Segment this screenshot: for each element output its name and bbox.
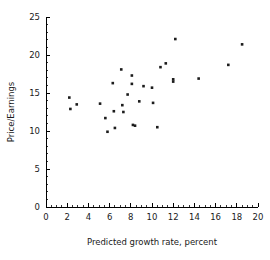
data-point <box>174 38 177 41</box>
y-axis-title: Price/Earnings <box>6 81 16 142</box>
data-point <box>159 66 162 69</box>
y-tick-label: 10 <box>29 126 40 136</box>
data-point <box>122 111 125 114</box>
data-point <box>142 85 145 88</box>
x-tick-label: 10 <box>147 212 158 222</box>
y-tick-label: 15 <box>29 88 40 98</box>
data-point <box>104 117 107 120</box>
data-point <box>197 77 200 80</box>
data-point <box>227 64 230 67</box>
data-point <box>131 83 134 86</box>
x-tick-label: 6 <box>107 212 112 222</box>
x-axis-title: Predicted growth rate, percent <box>87 237 218 247</box>
data-point <box>121 104 124 107</box>
data-point <box>241 43 244 46</box>
data-point <box>138 100 141 103</box>
y-tick-label: 0 <box>35 202 40 212</box>
data-point <box>152 102 155 105</box>
y-tick-label: 5 <box>35 164 40 174</box>
x-tick-label: 18 <box>231 212 242 222</box>
data-point <box>172 78 175 81</box>
data-point <box>134 124 137 127</box>
data-point <box>120 68 123 71</box>
data-point <box>126 93 129 96</box>
data-point <box>156 126 159 129</box>
x-tick-label: 4 <box>86 212 91 222</box>
scatter-plot-figure: 02468101214161820 0510152025 Predicted g… <box>0 0 270 260</box>
data-point <box>99 102 102 105</box>
x-tick-label: 2 <box>64 212 69 222</box>
data-point <box>106 130 109 133</box>
data-point <box>75 103 78 106</box>
y-tick-label: 25 <box>29 12 40 22</box>
x-tick-label: 0 <box>43 212 48 222</box>
x-tick-label: 8 <box>128 212 133 222</box>
x-tick-label: 20 <box>253 212 264 222</box>
y-axis-major-ticks <box>46 17 50 207</box>
data-point-series <box>68 38 243 133</box>
data-point <box>111 82 114 85</box>
data-point <box>164 62 167 65</box>
data-point <box>113 110 116 113</box>
data-point <box>114 127 117 130</box>
y-axis-tick-labels: 0510152025 <box>29 12 40 212</box>
x-tick-label: 16 <box>210 212 221 222</box>
y-tick-label: 20 <box>29 50 40 60</box>
x-tick-label: 14 <box>189 212 200 222</box>
data-point <box>151 86 154 89</box>
data-point <box>69 108 72 111</box>
data-point <box>131 74 134 77</box>
plot-canvas: 02468101214161820 0510152025 Predicted g… <box>0 0 270 260</box>
x-axis-tick-labels: 02468101214161820 <box>43 212 263 222</box>
data-point <box>68 96 71 99</box>
x-tick-label: 12 <box>168 212 179 222</box>
data-point <box>172 80 175 83</box>
